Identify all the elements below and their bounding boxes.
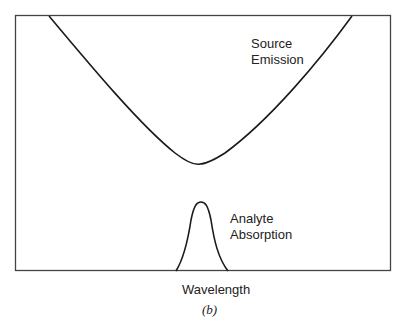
analyte-absorption-label: Analyte Absorption	[230, 211, 292, 243]
analyte-label-line2: Absorption	[230, 227, 292, 243]
source-emission-curve	[49, 16, 352, 164]
panel-label: (b)	[202, 302, 217, 318]
analyte-label-line1: Analyte	[230, 211, 292, 227]
diagram-canvas	[0, 0, 401, 322]
analyte-absorption-peak	[176, 202, 228, 271]
plot-frame	[16, 16, 391, 271]
source-label-line1: Source	[251, 36, 304, 52]
source-emission-label: Source Emission	[251, 36, 304, 68]
source-label-line2: Emission	[251, 52, 304, 68]
x-axis-label: Wavelength	[182, 282, 250, 298]
